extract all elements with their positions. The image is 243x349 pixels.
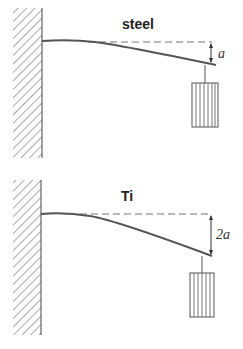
deflected-beam <box>41 213 212 256</box>
arrow-head-up <box>209 43 213 48</box>
cantilever-diagram <box>0 0 243 349</box>
ti-title: Ti <box>121 188 133 204</box>
arrow-head-down <box>209 58 213 63</box>
wall-hatch <box>13 8 42 158</box>
arrow-head-up <box>209 215 213 220</box>
wall-hatch <box>13 180 41 335</box>
deflection-label-a: a <box>218 46 225 62</box>
steel-title: steel <box>122 16 154 32</box>
deflection-label-2a: 2a <box>216 227 230 243</box>
steel-panel <box>13 8 218 158</box>
ti-panel <box>13 180 214 335</box>
deflected-beam <box>42 40 216 65</box>
